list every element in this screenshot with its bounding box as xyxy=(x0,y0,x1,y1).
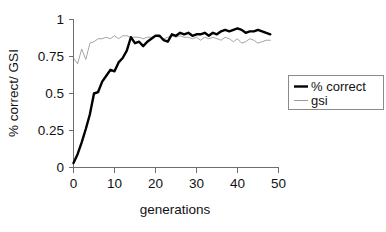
x-tick-label: 40 xyxy=(230,176,245,191)
chart-legend: % correct gsi xyxy=(289,76,384,110)
legend-label-gsi: gsi xyxy=(311,93,328,108)
y-tick-label: 0.5 xyxy=(45,86,64,101)
x-tick-label: 10 xyxy=(107,176,122,191)
y-tick-label: 0 xyxy=(56,160,64,175)
chart-container: 1 0.75 0.5 0.25 0 0 10 20 30 40 50 gener… xyxy=(0,0,386,232)
x-tick-label: 20 xyxy=(148,176,163,191)
legend-label-percent-correct: % correct xyxy=(311,79,366,94)
x-tick-label: 30 xyxy=(189,176,204,191)
x-tick-label: 50 xyxy=(271,176,286,191)
y-tick-label: 0.25 xyxy=(38,123,64,138)
y-tick-label: 1 xyxy=(56,12,64,27)
x-axis-title: generations xyxy=(140,202,211,217)
y-tick-label: 0.75 xyxy=(38,49,64,64)
y-axis-title: % correct/ GSI xyxy=(6,49,21,137)
line-chart: 1 0.75 0.5 0.25 0 0 10 20 30 40 50 gener… xyxy=(0,0,386,232)
x-tick-label: 0 xyxy=(70,176,78,191)
